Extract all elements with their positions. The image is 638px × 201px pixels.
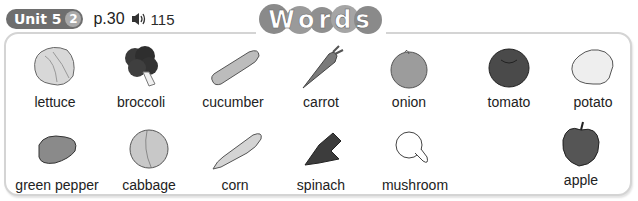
vocab-item-cucumber: cucumber	[188, 42, 278, 110]
apple-icon	[549, 120, 613, 170]
vocab-item-mushroom: mushroom	[370, 125, 460, 193]
vocab-label: tomato	[464, 94, 554, 110]
words-title-text: Words	[268, 6, 373, 34]
speaker-icon	[131, 12, 149, 26]
vocab-item-spinach: spinach	[276, 125, 366, 193]
broccoli-icon	[109, 42, 173, 92]
lettuce-icon	[23, 42, 87, 92]
cabbage-icon	[117, 125, 181, 175]
vocab-item-tomato: tomato	[464, 42, 554, 110]
potato-icon	[561, 42, 625, 92]
corn-icon	[203, 125, 267, 175]
track-number: 115	[151, 11, 175, 28]
unit-label: Unit 5	[14, 11, 61, 27]
green-pepper-icon	[25, 125, 89, 175]
vocab-item-apple: apple	[536, 120, 626, 188]
vocab-item-corn: corn	[190, 125, 280, 193]
vocab-label: green pepper	[12, 177, 102, 193]
vocab-item-lettuce: lettuce	[10, 42, 100, 110]
onion-icon	[377, 42, 441, 92]
vocab-label: onion	[364, 94, 454, 110]
vocab-item-onion: onion	[364, 42, 454, 110]
vocab-item-broccoli: broccoli	[96, 42, 186, 110]
vocab-item-potato: potato	[548, 42, 638, 110]
vocab-label: corn	[190, 177, 280, 193]
page-reference: p.30	[93, 10, 124, 28]
vocab-label: spinach	[276, 177, 366, 193]
words-title: Words	[258, 2, 384, 36]
vocab-item-carrot: carrot	[276, 42, 366, 110]
vocab-label: carrot	[276, 94, 366, 110]
cucumber-icon	[201, 42, 265, 92]
vocab-label: broccoli	[96, 94, 186, 110]
tomato-icon	[477, 42, 541, 92]
vocab-label: lettuce	[10, 94, 100, 110]
vocab-label: cucumber	[188, 94, 278, 110]
unit-badge: Unit 5 2	[6, 9, 83, 29]
vocab-label: mushroom	[370, 177, 460, 193]
vocab-label: cabbage	[104, 177, 194, 193]
lesson-header: Unit 5 2 p.30 115	[6, 8, 175, 30]
audio-track[interactable]: 115	[131, 11, 175, 28]
vocab-label: apple	[536, 172, 626, 188]
vocab-label: potato	[548, 94, 638, 110]
vocab-item-green-pepper: green pepper	[12, 125, 102, 193]
vocab-item-cabbage: cabbage	[104, 125, 194, 193]
lesson-number: 2	[65, 11, 81, 27]
mushroom-icon	[383, 125, 447, 175]
carrot-icon	[289, 42, 353, 92]
spinach-icon	[289, 125, 353, 175]
